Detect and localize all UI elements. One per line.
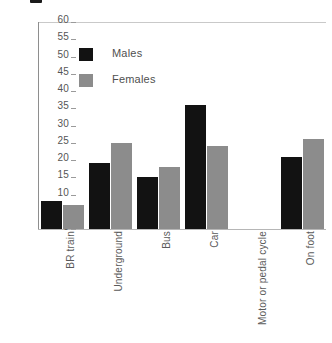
x-axis-labels: BR trainUndergroundBusCarMotor or pedal … — [38, 231, 326, 343]
x-axis-line — [38, 229, 326, 230]
legend-swatch-males-icon — [79, 48, 93, 61]
y-axis-tick-mark — [71, 229, 76, 230]
bar-group — [278, 22, 326, 229]
legend-item-females: Females — [79, 72, 199, 98]
bar-females — [303, 139, 324, 229]
x-axis-label: Bus — [162, 231, 172, 249]
bar-females — [111, 143, 132, 229]
bar-males — [137, 177, 158, 229]
legend-label-females: Females — [112, 72, 156, 87]
bar-females — [159, 167, 180, 229]
x-axis-label: Underground — [114, 231, 124, 292]
x-axis-label: Motor or pedal cycle — [258, 231, 268, 325]
clipped-title-glyph — [30, 0, 42, 3]
bar-chart: 051015202530354045505560 BR trainUndergr… — [0, 0, 332, 343]
bar-males — [89, 163, 110, 229]
legend-item-males: Males — [79, 46, 199, 72]
x-axis-label: On foot — [306, 231, 316, 265]
legend-swatch-females-icon — [79, 74, 93, 87]
bar-males — [281, 157, 302, 229]
bar-males — [185, 105, 206, 229]
legend-label-males: Males — [112, 46, 142, 61]
x-axis-label: BR train — [66, 231, 76, 269]
bar-females — [63, 205, 84, 229]
bar-females — [207, 146, 228, 229]
bar-males — [41, 201, 62, 229]
x-axis-label: Car — [210, 231, 220, 248]
chart-legend: Males Females — [79, 46, 199, 98]
bar-group — [230, 22, 278, 229]
